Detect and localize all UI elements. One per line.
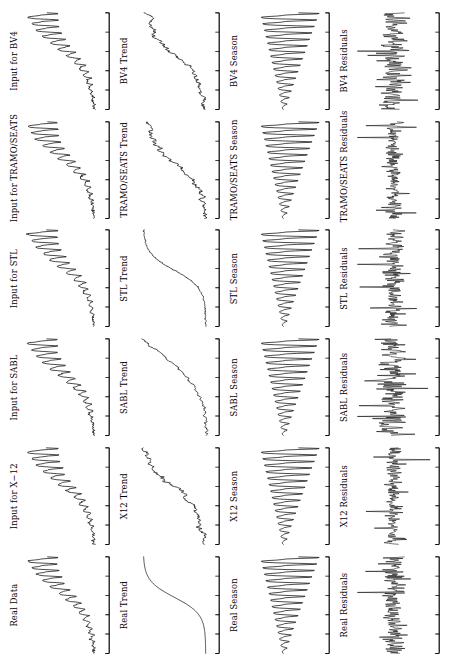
panel-bv4-residuals: BV4 Residuals: [334, 6, 444, 115]
series-line: [261, 448, 319, 544]
plot-svg: [132, 226, 222, 331]
panel-inner: Real Trend: [116, 552, 222, 657]
plot-svg: [242, 8, 332, 113]
plot-area: [242, 117, 332, 222]
panel-title: Input for STL: [6, 226, 21, 331]
panel-title: Input for SABL: [6, 335, 21, 440]
panel-inner: SABL Residuals: [336, 335, 442, 440]
plot-svg: [352, 335, 442, 440]
series-line: [144, 12, 206, 108]
plot-area: [132, 8, 222, 113]
panel-x12-residuals: X12 Residuals: [334, 441, 444, 550]
panel-title: Input for BV4: [6, 8, 21, 113]
panel-inner: SABL Season: [226, 335, 332, 440]
panel-title: X12 Residuals: [336, 443, 351, 548]
plot-svg: [22, 226, 112, 331]
panel-real-residuals: Real Residuals: [334, 550, 444, 659]
plot-svg: [242, 117, 332, 222]
series-line: [28, 556, 95, 652]
plot-svg: [22, 335, 112, 440]
plot-svg: [352, 552, 442, 657]
plot-area: [132, 335, 222, 440]
panel-inner: TRAMO/SEATS Season: [226, 117, 332, 222]
plot-area: [22, 117, 112, 222]
plot-svg: [132, 335, 222, 440]
panel-title: BV4 Residuals: [336, 8, 351, 113]
panel-inner: X12 Trend: [116, 443, 222, 548]
series-line: [261, 121, 319, 217]
plot-area: [352, 335, 442, 440]
plot-svg: [22, 443, 112, 548]
series-line: [27, 339, 94, 435]
panel-bv4-season: BV4 Season: [224, 6, 334, 115]
series-line: [357, 12, 418, 108]
series-line: [261, 339, 319, 435]
panel-real-data: Real Data: [4, 550, 114, 659]
series-line: [141, 448, 206, 544]
plot-area: [22, 8, 112, 113]
plot-area: [132, 443, 222, 548]
plot-svg: [242, 443, 332, 548]
decomposition-figure: Real DataInput for X−12Input for SABLInp…: [0, 0, 450, 665]
panel-inner: STL Residuals: [336, 226, 442, 331]
panel-input-for-x-12: Input for X−12: [4, 441, 114, 550]
plot-svg: [132, 8, 222, 113]
series-line: [145, 121, 206, 217]
series-line: [26, 230, 94, 326]
series-line: [28, 121, 94, 217]
panel-inner: Input for SABL: [6, 335, 112, 440]
panel-title: Real Data: [6, 552, 21, 657]
panel-inner: BV4 Season: [226, 8, 332, 113]
panel-x12-trend: X12 Trend: [114, 441, 224, 550]
panel-inner: Input for TRAMO/SEATS: [6, 117, 112, 222]
series-line: [27, 448, 95, 544]
panel-input-for-bv4: Input for BV4: [4, 6, 114, 115]
panel-inner: Real Season: [226, 552, 332, 657]
plot-svg: [242, 335, 332, 440]
plot-area: [242, 335, 332, 440]
panel-inner: BV4 Trend: [116, 8, 222, 113]
panel-input-for-sabl: Input for SABL: [4, 333, 114, 442]
panel-title: Real Trend: [116, 552, 131, 657]
panel-inner: Input for X−12: [6, 443, 112, 548]
series-line: [357, 230, 416, 326]
plot-area: [352, 552, 442, 657]
panel-stl-trend: STL Trend: [114, 224, 224, 333]
panel-tramo-seats-season: TRAMO/SEATS Season: [224, 115, 334, 224]
panel-stl-season: STL Season: [224, 224, 334, 333]
series-line: [141, 339, 207, 435]
panel-inner: Real Residuals: [336, 552, 442, 657]
panel-grid: Real DataInput for X−12Input for SABLInp…: [0, 0, 450, 665]
panel-title: SABL Season: [226, 335, 241, 440]
series-line: [27, 12, 95, 108]
plot-svg: [132, 443, 222, 548]
panel-sabl-season: SABL Season: [224, 333, 334, 442]
plot-svg: [352, 8, 442, 113]
plot-svg: [22, 117, 112, 222]
series-line: [261, 12, 319, 108]
panel-title: SABL Trend: [116, 335, 131, 440]
panel-real-season: Real Season: [224, 550, 334, 659]
panel-title: X12 Season: [226, 443, 241, 548]
plot-area: [132, 552, 222, 657]
plot-area: [242, 8, 332, 113]
panel-title: BV4 Season: [226, 8, 241, 113]
plot-svg: [242, 552, 332, 657]
panel-title: SABL Residuals: [336, 335, 351, 440]
plot-area: [242, 443, 332, 548]
panel-title: TRAMO/SEATS Residuals: [336, 117, 351, 222]
panel-inner: Input for STL: [6, 226, 112, 331]
panel-inner: TRAMO/SEATS Trend: [116, 117, 222, 222]
plot-svg: [242, 226, 332, 331]
panel-title: Input for TRAMO/SEATS: [6, 117, 21, 222]
rotated-figure-wrapper: Real DataInput for X−12Input for SABLInp…: [0, 0, 450, 665]
series-line: [365, 448, 429, 544]
panel-inner: Real Data: [6, 552, 112, 657]
panel-inner: TRAMO/SEATS Residuals: [336, 117, 442, 222]
panel-inner: SABL Trend: [116, 335, 222, 440]
series-line: [261, 230, 319, 326]
panel-sabl-trend: SABL Trend: [114, 333, 224, 442]
panel-title: Input for X−12: [6, 443, 21, 548]
panel-title: TRAMO/SEATS Season: [226, 117, 241, 222]
panel-stl-residuals: STL Residuals: [334, 224, 444, 333]
